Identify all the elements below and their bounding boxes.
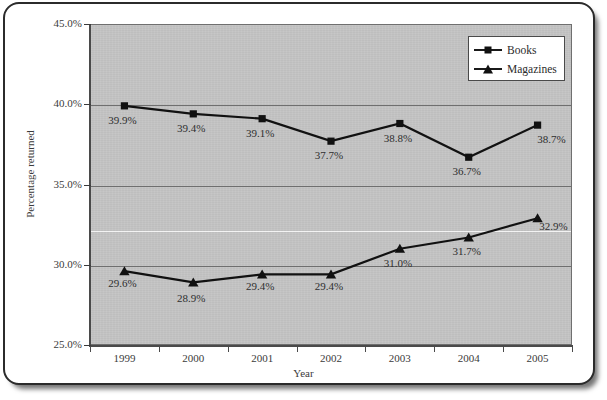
data-point-square xyxy=(534,122,541,129)
data-point-label: 29.6% xyxy=(108,277,136,289)
data-point-label: 28.9% xyxy=(177,292,205,304)
data-point-label: 31.7% xyxy=(452,245,480,257)
data-point-label: 39.9% xyxy=(108,114,136,126)
legend-label-magazines: Magazines xyxy=(507,63,557,75)
legend-label-books: Books xyxy=(507,44,536,56)
data-point-label: 39.1% xyxy=(246,127,274,139)
data-point-square xyxy=(190,110,197,117)
data-point-square xyxy=(465,154,472,161)
data-point-label: 38.8% xyxy=(384,132,412,144)
chart-legend[interactable]: Books Magazines xyxy=(468,36,565,81)
data-point-label: 31.0% xyxy=(384,257,412,269)
data-point-label: 29.4% xyxy=(246,280,274,292)
triangle-marker-icon xyxy=(474,63,502,75)
data-point-label: 36.7% xyxy=(452,165,480,177)
legend-item-books[interactable]: Books xyxy=(469,40,564,59)
data-point-label: 37.7% xyxy=(315,149,343,161)
data-point-square xyxy=(259,115,266,122)
data-point-label: 29.4% xyxy=(315,280,343,292)
data-point-square xyxy=(121,102,128,109)
chart-screenshot: 45.0%40.0%35.0%30.0%25.0% 19992000200120… xyxy=(0,0,607,400)
data-point-label: 38.7% xyxy=(537,133,565,145)
data-point-label: 39.4% xyxy=(177,122,205,134)
data-point-label: 32.9% xyxy=(539,220,567,232)
data-point-square xyxy=(327,138,334,145)
data-point-square xyxy=(396,120,403,127)
legend-item-magazines[interactable]: Magazines xyxy=(469,59,564,78)
square-marker-icon xyxy=(474,44,502,56)
